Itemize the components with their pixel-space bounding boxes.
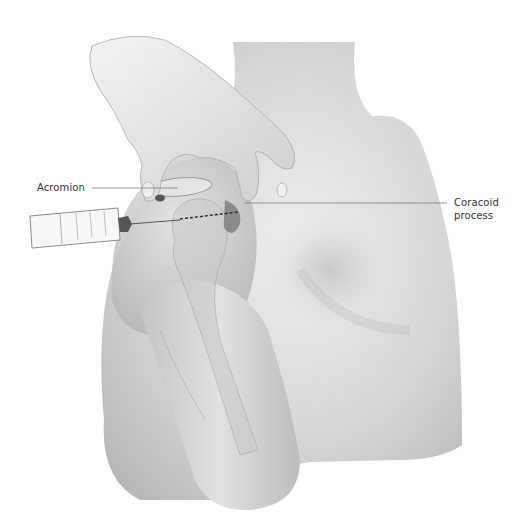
- label-acromion: Acromion: [37, 181, 85, 194]
- label-coracoid-process: Coracoid process: [454, 196, 514, 222]
- label-coracoid-line2: process: [454, 209, 514, 222]
- label-coracoid-line1: Coracoid: [454, 196, 514, 209]
- shoulder-illustration: [0, 0, 521, 529]
